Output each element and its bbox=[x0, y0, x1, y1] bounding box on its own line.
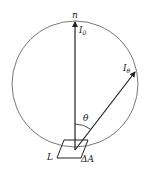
angled-intensity-arrow bbox=[75, 72, 135, 150]
surface-label: L bbox=[46, 152, 53, 162]
theta-label: θ bbox=[83, 113, 89, 123]
diagram-canvas: n I0 Iθ θ L ΔA bbox=[0, 0, 147, 175]
normal-intensity-label: I0 bbox=[78, 25, 87, 36]
area-label: ΔA bbox=[80, 154, 94, 164]
angle-intensity-label: Iθ bbox=[122, 63, 131, 74]
normal-label: n bbox=[72, 10, 78, 20]
angle-arc bbox=[75, 124, 91, 129]
